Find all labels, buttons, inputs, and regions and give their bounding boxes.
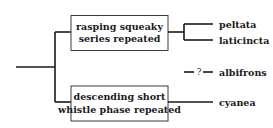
node-bottom-box: descending short whistle phase repeated [57,86,181,121]
top-box-line-2: series repeated [79,33,161,44]
leaf-laticincta: laticincta [219,35,269,46]
bottom-box-line-2: whistle phase repeated [57,104,181,115]
bottom-box-line-1: descending short [74,91,166,102]
leaf-peltata: peltata [219,19,256,30]
leaf-albifrons: albifrons [219,67,267,78]
leaf-cyanea: cyanea [219,97,256,108]
top-box-line-1: rasping squeaky [76,21,163,32]
uncertain-marker: ? [197,67,202,77]
node-top-box: rasping squeaky series repeated [71,16,168,51]
tree-diagram: rasping squeaky series repeated descendi… [0,0,273,128]
